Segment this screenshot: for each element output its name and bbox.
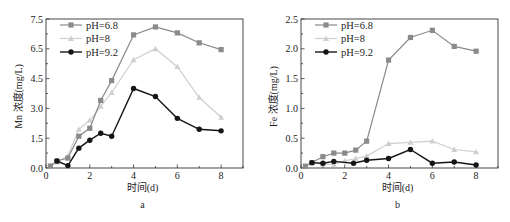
y-tick-label: 0.0 <box>31 163 44 174</box>
circle-marker <box>430 161 435 166</box>
square-marker <box>219 47 224 52</box>
square-marker <box>153 24 158 29</box>
circle-marker <box>386 156 391 161</box>
x-tick-label: 0 <box>44 170 49 181</box>
circle-marker <box>331 159 336 164</box>
square-marker <box>430 28 435 33</box>
square-marker <box>323 22 328 27</box>
square-marker <box>98 98 103 103</box>
series-line <box>50 49 221 166</box>
square-marker <box>353 148 358 153</box>
circle-marker <box>87 137 92 142</box>
legend-label: pH=9.2 <box>86 47 118 58</box>
circle-marker <box>54 158 59 163</box>
fe-concentration-chart: 024680.00.51.01.52.02.5时间(d)Fe 浓度(mg/L)b… <box>255 0 510 222</box>
square-marker <box>342 151 347 156</box>
x-tick-label: 2 <box>342 170 347 181</box>
x-tick-label: 0 <box>299 170 304 181</box>
square-marker <box>68 22 73 27</box>
square-marker <box>408 35 413 40</box>
legend-label: pH=8 <box>341 33 365 44</box>
circle-marker <box>218 128 223 133</box>
square-marker <box>197 40 202 45</box>
legend: pH=6.8pH=8pH=9.2 <box>315 20 373 58</box>
x-tick-label: 6 <box>430 170 435 181</box>
legend-item: pH=6.8 <box>315 20 373 31</box>
x-tick-label: 8 <box>474 170 479 181</box>
y-axis-label: Fe 浓度(mg/L) <box>267 66 280 127</box>
y-tick-label: 2.5 <box>286 14 299 25</box>
x-tick-label: 4 <box>386 170 391 181</box>
x-axis-label: 时间(d) <box>127 181 159 194</box>
circle-marker <box>473 162 478 167</box>
legend-item: pH=8 <box>60 33 110 44</box>
circle-marker <box>408 147 413 152</box>
square-marker <box>303 164 308 169</box>
x-tick-label: 6 <box>175 170 180 181</box>
plot-frame <box>301 19 498 168</box>
square-marker <box>48 163 53 168</box>
y-tick-label: 1.0 <box>286 103 299 114</box>
circle-marker <box>364 158 369 163</box>
x-axis-label: 时间(d) <box>382 181 414 194</box>
series-pH-6-8 <box>48 24 224 168</box>
legend-item: pH=8 <box>315 33 365 44</box>
series-pH-6-8 <box>303 28 479 169</box>
series-line <box>50 27 221 166</box>
square-marker <box>87 126 92 131</box>
circle-marker <box>153 94 158 99</box>
triangle-marker <box>152 46 158 51</box>
square-marker <box>452 44 457 49</box>
circle-marker <box>323 49 328 54</box>
y-tick-label: 1.5 <box>286 73 299 84</box>
y-tick-label: 4.5 <box>31 73 44 84</box>
legend: pH=6.8pH=8pH=9.2 <box>60 20 118 58</box>
y-tick-label: 0.0 <box>286 163 299 174</box>
y-axis-label: Mn 浓度(mg/L) <box>12 64 25 129</box>
square-marker <box>65 155 70 160</box>
square-marker <box>364 139 369 144</box>
x-tick-label: 2 <box>87 170 92 181</box>
circle-marker <box>197 127 202 132</box>
circle-marker <box>109 134 114 139</box>
square-marker <box>320 154 325 159</box>
legend-label: pH=8 <box>86 33 110 44</box>
square-marker <box>331 151 336 156</box>
square-marker <box>109 78 114 83</box>
circle-marker <box>65 163 70 168</box>
circle-marker <box>76 145 81 150</box>
x-tick-label: 8 <box>219 170 224 181</box>
circle-marker <box>320 161 325 166</box>
x-tick-label: 4 <box>131 170 136 181</box>
square-marker <box>76 134 81 139</box>
legend-label: pH=9.2 <box>341 47 373 58</box>
legend-item: pH=9.2 <box>60 47 118 58</box>
legend-item: pH=6.8 <box>60 20 118 31</box>
circle-marker <box>175 116 180 121</box>
circle-marker <box>131 86 136 91</box>
legend-label: pH=6.8 <box>341 20 373 31</box>
chart-panel-b: 024680.00.51.01.52.02.5时间(d)Fe 浓度(mg/L)b… <box>255 0 510 222</box>
y-tick-label: 1.5 <box>31 133 44 144</box>
circle-marker <box>351 161 356 166</box>
circle-marker <box>452 159 457 164</box>
mn-concentration-chart: 024680.01.53.04.56.57.5时间(d)Mn 浓度(mg/L)a… <box>0 0 255 222</box>
square-marker <box>386 58 391 63</box>
circle-marker <box>68 49 73 54</box>
y-tick-label: 0.5 <box>286 133 299 144</box>
square-marker <box>474 49 479 54</box>
y-tick-label: 6.5 <box>31 43 44 54</box>
triangle-marker <box>131 57 137 62</box>
square-marker <box>175 30 180 35</box>
panel-caption: a <box>140 199 145 210</box>
legend-item: pH=9.2 <box>315 47 373 58</box>
panel-caption: b <box>395 199 400 210</box>
legend-label: pH=6.8 <box>86 20 118 31</box>
y-tick-label: 3.0 <box>31 103 44 114</box>
circle-marker <box>98 131 103 136</box>
y-tick-label: 7.5 <box>31 14 44 25</box>
circle-marker <box>309 160 314 165</box>
plot-frame <box>46 19 243 168</box>
y-tick-label: 2.0 <box>286 43 299 54</box>
series-pH-8 <box>47 46 224 169</box>
